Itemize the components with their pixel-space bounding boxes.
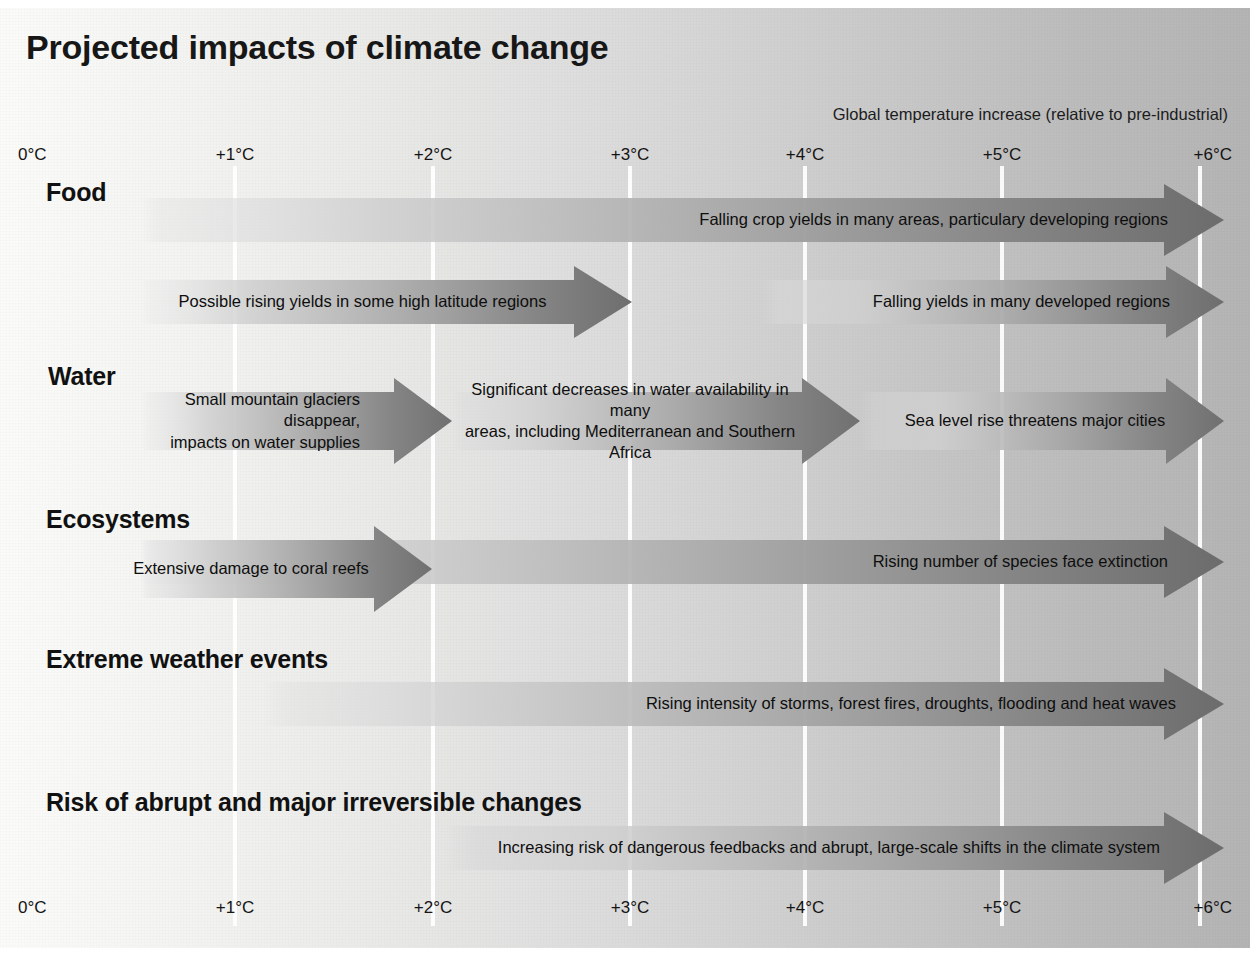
arrow-label-extreme-weather-rising-intensity: Rising intensity of storms, forest fires…	[540, 668, 1176, 740]
tick-top-2: +2°C	[414, 145, 452, 165]
category-label-ecosystems: Ecosystems	[46, 505, 190, 534]
tick-bottom-3: +3°C	[611, 898, 649, 918]
tick-top-3: +3°C	[611, 145, 649, 165]
arrow-label-food-rising-yields-high-latitude: Possible rising yields in some high lati…	[150, 266, 575, 338]
category-label-food: Food	[46, 178, 106, 207]
tick-bottom-4: +4°C	[786, 898, 824, 918]
tick-bottom-2: +2°C	[414, 898, 452, 918]
tick-top-0: 0°C	[18, 145, 47, 165]
arrow-label-water-sea-level-rise: Sea level rise threatens major cities	[890, 378, 1180, 464]
tick-top-1: +1°C	[216, 145, 254, 165]
arrow-label-water-decreases-availability: Significant decreases in water availabil…	[450, 378, 810, 464]
category-label-water: Water	[48, 362, 116, 391]
category-label-risk-of-abrupt-and-major-irreversible-changes: Risk of abrupt and major irreversible ch…	[46, 788, 582, 817]
arrow-label-food-falling-crop-yields: Falling crop yields in many areas, parti…	[600, 184, 1224, 256]
arrow-label-ecosystems-species-extinction: Rising number of species face extinction	[690, 526, 1168, 598]
tick-top-4: +4°C	[786, 145, 824, 165]
tick-bottom-5: +5°C	[983, 898, 1021, 918]
climate-impacts-diagram: Projected impacts of climate change Glob…	[0, 0, 1250, 978]
tick-bottom-1: +1°C	[216, 898, 254, 918]
axis-caption: Global temperature increase (relative to…	[833, 105, 1228, 124]
page-title: Projected impacts of climate change	[26, 28, 609, 67]
tick-top-6: +6°C	[1194, 145, 1232, 165]
bottom-strip	[0, 948, 1250, 978]
arrow-label-risk-abrupt-feedbacks: Increasing risk of dangerous feedbacks a…	[390, 812, 1160, 884]
arrow-label-water-glaciers-disappear: Small mountain glaciers disappear, impac…	[122, 378, 360, 464]
tick-bottom-0: 0°C	[18, 898, 47, 918]
tick-top-5: +5°C	[983, 145, 1021, 165]
arrow-label-ecosystems-coral-reefs: Extensive damage to coral reefs	[122, 526, 380, 612]
arrow-label-food-falling-yields-developed: Falling yields in many developed regions	[790, 266, 1170, 338]
tick-bottom-6: +6°C	[1194, 898, 1232, 918]
category-label-extreme-weather-events: Extreme weather events	[46, 645, 328, 674]
